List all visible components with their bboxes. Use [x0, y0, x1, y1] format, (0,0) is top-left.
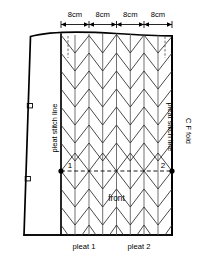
chevron-r12-c1 — [117, 225, 124, 235]
pleat-2-label: pleat 2 — [128, 242, 151, 251]
chevron-r12-d1 — [144, 225, 151, 235]
point-2-label: 2 — [161, 161, 166, 170]
dimension-label-2: 8cm — [96, 10, 110, 19]
arrow-head-l3 — [139, 22, 144, 26]
dimension-label-1: 8cm — [68, 10, 82, 19]
chevron-r12-d2 — [165, 225, 172, 235]
chevron-r12-a2 — [82, 225, 89, 235]
arrow-head-l2 — [112, 22, 117, 26]
chevron-r12-a1 — [61, 225, 68, 235]
pattern-outline-group — [24, 32, 172, 235]
dimension-line-group: 8cm 8cm 8cm 8cm — [61, 10, 172, 28]
chevron-r12-c2 — [137, 225, 144, 235]
pattern-diagram: 8cm 8cm 8cm 8cm — [0, 0, 203, 259]
point-1-marker — [58, 168, 63, 173]
bottom-labels-group: pleat 1 pleat 2 — [73, 242, 151, 251]
inner-vertical-lines-group — [75, 34, 158, 235]
chevron-r12-b2 — [110, 225, 117, 235]
point-1-label: 1 — [68, 161, 73, 170]
arrow-head-r3 — [144, 22, 149, 26]
arrow-head-l1 — [84, 22, 89, 26]
dimension-label-3: 8cm — [123, 10, 137, 19]
arrow-head-l4 — [167, 22, 172, 26]
chevron-r12-b1 — [89, 225, 96, 235]
arrow-head-r1 — [89, 22, 94, 26]
arrow-head-r0 — [61, 22, 66, 26]
skirt-outline — [24, 32, 172, 235]
cf-fold-label: C F fold — [184, 118, 193, 144]
pattern-drawing: 8cm 8cm 8cm 8cm — [0, 0, 203, 259]
left-pleat-stitch-line-label: pleat stitch line — [50, 104, 59, 153]
right-pleat-stitch-line-label: pleat stitch line — [166, 103, 175, 152]
point-2-marker — [169, 168, 174, 173]
arrow-head-r2 — [117, 22, 122, 26]
pleat-1-label: pleat 1 — [73, 242, 96, 251]
front-label: front — [108, 194, 125, 203]
dimension-label-4: 8cm — [151, 10, 165, 19]
side-text-group: pleat stitch line pleat stitch line C F … — [50, 103, 193, 153]
